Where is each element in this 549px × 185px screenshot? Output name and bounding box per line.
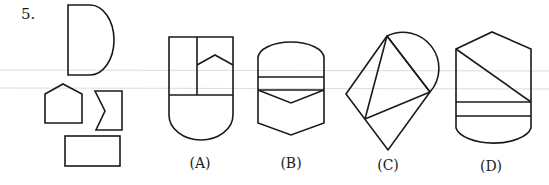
piece-notched-rectangle — [95, 91, 122, 130]
option-d-figure[interactable] — [456, 32, 531, 143]
piece-rectangle — [65, 136, 120, 166]
figure-canvas — [0, 0, 549, 185]
piece-pentagon — [45, 84, 82, 123]
option-a-label[interactable]: (A) — [189, 155, 210, 171]
piece-half-disc — [68, 5, 114, 75]
option-c-label[interactable]: (C) — [377, 157, 399, 173]
option-b-label[interactable]: (B) — [280, 155, 301, 171]
scan-line — [0, 70, 549, 71]
option-c-figure[interactable] — [346, 32, 439, 150]
option-d-label[interactable]: (D) — [480, 158, 502, 174]
scan-line — [0, 88, 549, 89]
question-number: 5. — [21, 5, 35, 23]
